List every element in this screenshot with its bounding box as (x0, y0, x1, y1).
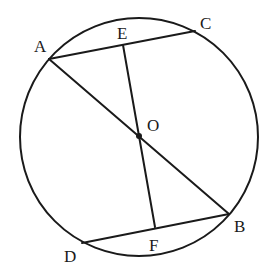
label-f: F (149, 236, 158, 255)
label-b: B (234, 217, 245, 236)
label-d: D (64, 247, 76, 266)
geometry-diagram: A C E O B D F (0, 0, 264, 277)
label-a: A (34, 37, 47, 56)
label-o: O (147, 116, 159, 135)
label-e: E (117, 24, 127, 43)
label-c: C (200, 14, 211, 33)
center-point-o (136, 133, 142, 139)
